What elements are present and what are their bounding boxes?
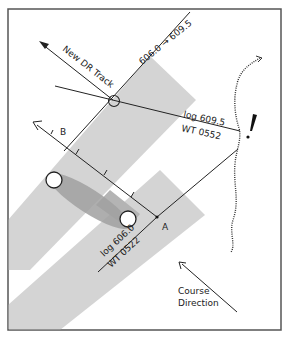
point-a-dot: [155, 215, 158, 218]
course-direction-label-2: Direction: [178, 298, 219, 308]
navigation-diagram: New DR Track 606.0 → 609.5 log 609.5 WT …: [0, 0, 287, 338]
fix-circle-start: [46, 172, 62, 188]
point-b-label: B: [60, 127, 66, 137]
course-direction-label-1: Course: [178, 286, 210, 296]
point-a-label: A: [162, 222, 169, 232]
hazard-dot: [246, 135, 249, 138]
